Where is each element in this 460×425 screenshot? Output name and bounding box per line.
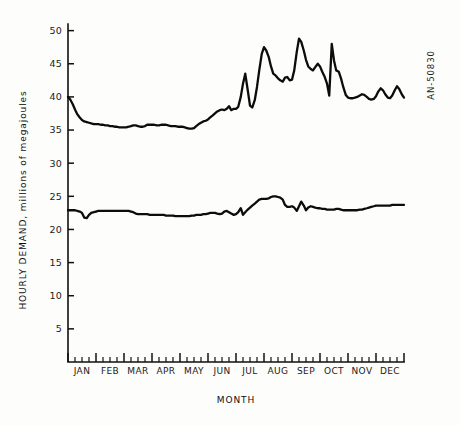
y-tick-label: 30 (50, 158, 63, 169)
x-axis-ticks (68, 353, 404, 362)
axis-lines (68, 24, 404, 362)
y-tick-label: 35 (50, 124, 63, 135)
x-tick-label-jan: JAN (73, 366, 91, 376)
y-tick-label: 40 (50, 91, 63, 102)
x-tick-label-sep: SEP (297, 366, 315, 376)
y-axis-title: HOURLY DEMAND, millions of megajoules (18, 90, 28, 309)
y-tick-label: 50 (50, 25, 63, 36)
data-series-group (68, 39, 404, 219)
x-tick-label-apr: APR (156, 366, 175, 376)
y-axis-tick-labels: 5101520253035404550 (50, 25, 63, 334)
y-tick-label: 15 (50, 257, 63, 268)
x-tick-label-oct: OCT (324, 366, 344, 376)
x-tick-label-feb: FEB (101, 366, 119, 376)
y-axis-ticks (68, 31, 74, 329)
x-axis-tick-labels: JANFEBMARAPRMAYJUNJULAUGSEPOCTNOVDEC (73, 366, 400, 376)
y-tick-label: 20 (50, 224, 63, 235)
series-line-lower (68, 196, 404, 218)
series-line-upper (68, 39, 404, 129)
x-tick-label-nov: NOV (351, 366, 372, 376)
x-tick-label-dec: DEC (380, 366, 400, 376)
x-tick-label-jun: JUN (212, 366, 230, 376)
y-tick-label: 45 (50, 58, 63, 69)
figure-reference-code: AN-50830 (426, 50, 436, 99)
x-tick-label-jul: JUL (241, 366, 257, 376)
y-tick-label: 25 (50, 191, 63, 202)
x-tick-label-mar: MAR (127, 366, 148, 376)
x-tick-label-may: MAY (184, 366, 204, 376)
x-tick-label-aug: AUG (268, 366, 289, 376)
x-axis-title: MONTH (217, 395, 255, 405)
y-tick-label: 10 (50, 290, 63, 301)
y-tick-label: 5 (56, 323, 62, 334)
chart-figure: 5101520253035404550 JANFEBMARAPRMAYJUNJU… (0, 0, 460, 425)
line-chart-svg: 5101520253035404550 JANFEBMARAPRMAYJUNJU… (0, 0, 460, 425)
